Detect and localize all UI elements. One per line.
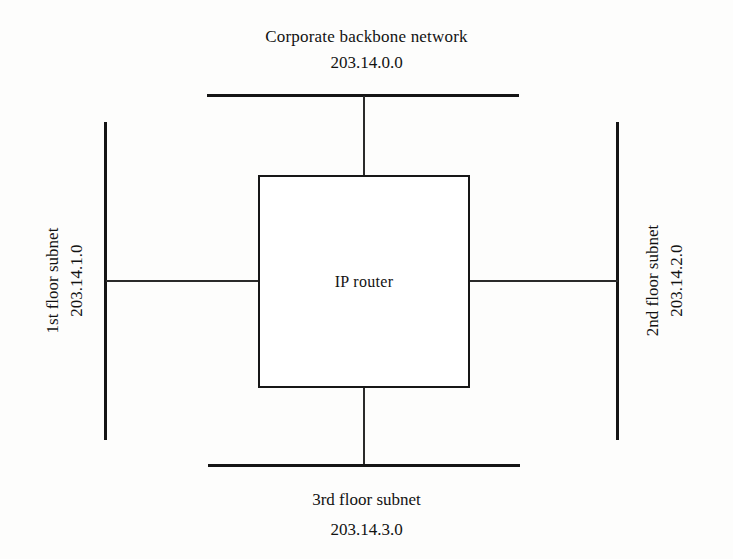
second-floor-segment-address: 203.14.2.0 xyxy=(667,244,686,316)
second-floor-to-router-link xyxy=(470,280,618,282)
second-floor-segment-name: 2nd floor subnet xyxy=(643,225,662,336)
first-floor-segment-address: 203.14.1.0 xyxy=(67,244,86,316)
network-diagram-canvas: Corporate backbone network 203.14.0.0 1s… xyxy=(0,0,733,559)
backbone-to-router-link xyxy=(363,96,365,175)
ip-router-node[interactable]: IP router xyxy=(258,175,470,388)
first-floor-to-router-link xyxy=(106,280,258,282)
backbone-segment-address: 203.14.0.0 xyxy=(0,50,733,76)
first-floor-segment-address-label: 203.14.1.0 xyxy=(64,181,89,381)
third-floor-segment-address: 203.14.3.0 xyxy=(0,515,733,545)
third-floor-to-router-link xyxy=(363,388,365,466)
first-floor-segment-label: 1st floor subnet xyxy=(40,181,65,381)
second-floor-segment-label: 2nd floor subnet xyxy=(640,181,665,381)
third-floor-segment-name: 3rd floor subnet xyxy=(0,485,733,515)
second-floor-segment-address-label: 203.14.2.0 xyxy=(664,181,689,381)
third-floor-bus-line xyxy=(208,464,520,467)
first-floor-segment-name: 1st floor subnet xyxy=(43,228,62,334)
backbone-segment-label: Corporate backbone network 203.14.0.0 xyxy=(0,24,733,76)
ip-router-label: IP router xyxy=(260,272,468,290)
backbone-segment-name: Corporate backbone network xyxy=(0,24,733,50)
third-floor-segment-label: 3rd floor subnet 203.14.3.0 xyxy=(0,485,733,545)
